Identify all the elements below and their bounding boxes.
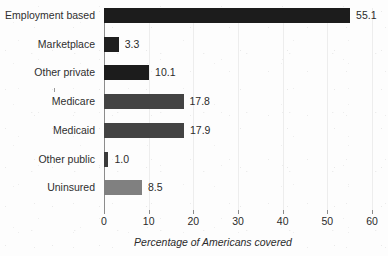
scan-artifact-speck xyxy=(54,88,55,92)
x-tick-mark xyxy=(104,210,105,214)
bar xyxy=(104,65,149,80)
x-tick-mark xyxy=(238,210,239,214)
bar-value-label: 17.9 xyxy=(190,123,210,138)
bar-value-label: 8.5 xyxy=(148,180,163,195)
x-tick-label: 50 xyxy=(321,215,333,227)
bar-value-label: 17.8 xyxy=(190,94,210,109)
x-tick-label: 40 xyxy=(277,215,289,227)
x-axis: 0102030405060 xyxy=(104,210,372,234)
bar xyxy=(104,152,108,167)
bar-value-label: 3.3 xyxy=(125,37,140,52)
x-tick-mark xyxy=(327,210,328,214)
bar xyxy=(104,123,184,138)
category-label: Medicare xyxy=(0,95,100,107)
category-label: Employment based xyxy=(0,9,100,21)
bar-value-label: 10.1 xyxy=(155,65,175,80)
bar-chart: Employment basedMarketplaceOther private… xyxy=(0,0,388,256)
x-axis-title: Percentage of Americans covered xyxy=(0,236,388,248)
gridline-60 xyxy=(372,8,373,210)
x-tick-label: 30 xyxy=(232,215,244,227)
bar xyxy=(104,94,184,109)
plot-area: 55.13.310.117.817.91.08.5 xyxy=(104,8,372,210)
category-axis: Employment basedMarketplaceOther private… xyxy=(0,0,100,210)
bar xyxy=(104,180,142,195)
x-tick-mark xyxy=(372,210,373,214)
x-tick-label: 10 xyxy=(143,215,155,227)
x-tick-mark xyxy=(283,210,284,214)
category-label: Marketplace xyxy=(0,38,100,50)
x-tick-mark xyxy=(193,210,194,214)
x-tick-label: 20 xyxy=(187,215,199,227)
category-label: Other public xyxy=(0,153,100,165)
x-tick-label: 0 xyxy=(101,215,107,227)
bar-value-label: 55.1 xyxy=(356,8,376,23)
x-tick-label: 60 xyxy=(366,215,378,227)
bar xyxy=(104,8,350,23)
bar xyxy=(104,37,119,52)
category-label: Medicaid xyxy=(0,124,100,136)
x-tick-mark xyxy=(149,210,150,214)
category-label: Uninsured xyxy=(0,181,100,193)
category-label: Other private xyxy=(0,66,100,78)
bar-value-label: 1.0 xyxy=(114,152,129,167)
